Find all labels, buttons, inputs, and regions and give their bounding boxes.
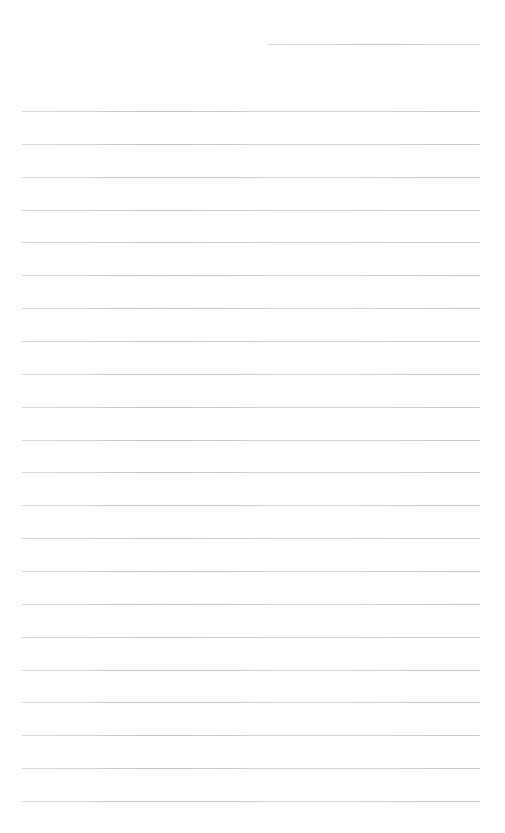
ruled-line	[22, 801, 480, 802]
ruled-line	[22, 177, 480, 178]
header-line	[267, 44, 480, 45]
ruled-line	[22, 210, 480, 211]
ruled-line	[22, 768, 480, 769]
ruled-line	[22, 538, 480, 539]
ruled-line	[22, 637, 480, 638]
ruled-line	[22, 670, 480, 671]
ruled-line	[22, 308, 480, 309]
ruled-line	[22, 341, 480, 342]
ruled-line	[22, 407, 480, 408]
ruled-line	[22, 604, 480, 605]
ruled-line	[22, 505, 480, 506]
ruled-line	[22, 571, 480, 572]
ruled-line	[22, 735, 480, 736]
ruled-line	[22, 144, 480, 145]
ruled-line	[22, 374, 480, 375]
ruled-line	[22, 440, 480, 441]
ruled-line	[22, 111, 480, 112]
ruled-line	[22, 242, 480, 243]
ruled-line	[22, 472, 480, 473]
ruled-line	[22, 275, 480, 276]
lined-paper-page	[0, 0, 505, 833]
ruled-line	[22, 702, 480, 703]
